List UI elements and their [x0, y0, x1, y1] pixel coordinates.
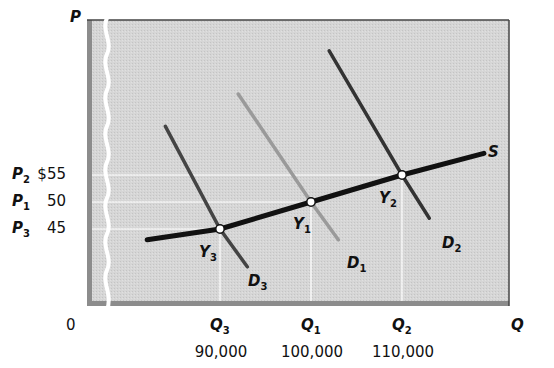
x-tick-symbol-q2: Q2	[392, 316, 412, 336]
d3-label: D3	[248, 272, 267, 292]
y-tick-value-p1: 50	[47, 192, 66, 210]
y-tick-value-p3: 45	[47, 219, 66, 237]
equilibrium-label-y2: Y2	[379, 189, 397, 209]
x-axis-label: Q	[511, 316, 524, 334]
y-tick-symbol-p3: P3	[12, 219, 30, 239]
equilibrium-point-y1	[307, 198, 315, 206]
y-tick-symbol-p2: P2	[12, 165, 30, 185]
x-tick-value-q1: 100,000	[277, 343, 347, 361]
equilibrium-point-y2	[398, 171, 406, 179]
origin-label: 0	[66, 316, 76, 334]
y-tick-symbol-p1: P1	[12, 192, 30, 212]
s-label: S	[488, 143, 499, 161]
d2-label: D2	[442, 234, 461, 254]
supply-demand-chart	[0, 0, 554, 368]
panel-bottom-shadow	[87, 301, 509, 306]
equilibrium-label-y1: Y1	[293, 215, 311, 235]
y-axis-label: P	[70, 8, 81, 26]
x-tick-symbol-q3: Q3	[210, 316, 230, 336]
y-tick-value-p2: $55	[37, 165, 66, 183]
d1-label: D1	[347, 254, 366, 274]
x-tick-value-q3: 90,000	[186, 343, 256, 361]
x-tick-symbol-q1: Q1	[301, 316, 321, 336]
equilibrium-label-y3: Y3	[199, 243, 217, 263]
panel-left-shadow	[87, 20, 92, 306]
x-tick-value-q2: 110,000	[368, 343, 438, 361]
equilibrium-point-y3	[216, 225, 224, 233]
